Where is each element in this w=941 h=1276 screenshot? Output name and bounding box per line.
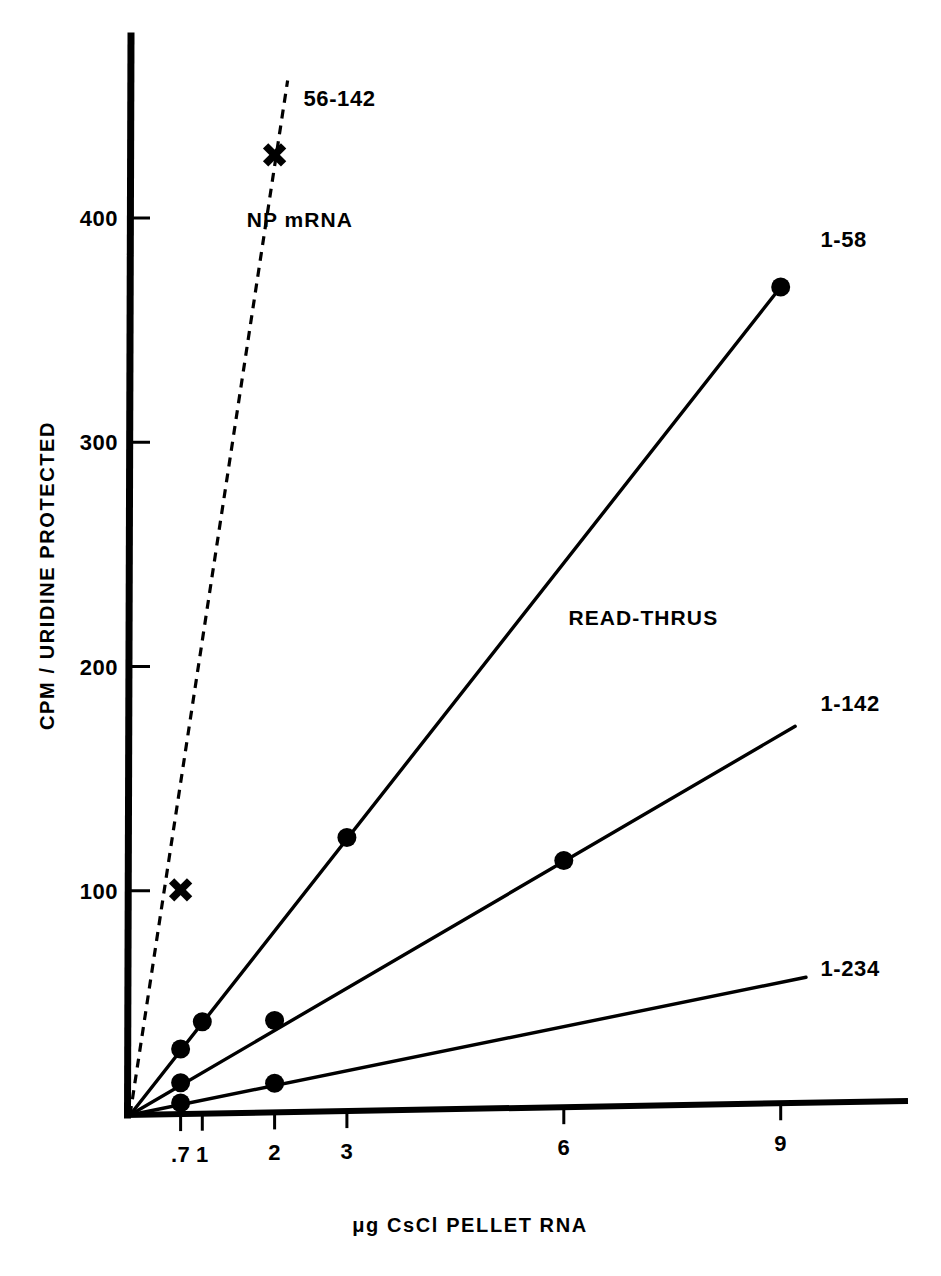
data-point-dot-1-142 bbox=[265, 1011, 284, 1030]
y-tick-label: 400 bbox=[80, 206, 118, 231]
series-label-1-142: 1-142 bbox=[820, 691, 879, 716]
y-tick-label: 100 bbox=[80, 879, 118, 904]
data-point-cross-56-142 bbox=[172, 881, 190, 899]
data-point-dot-1-142 bbox=[171, 1073, 190, 1092]
axes-group bbox=[128, 36, 906, 1115]
data-point-dot-1-142 bbox=[554, 851, 573, 870]
figure-root: 100200300400 .712369 56-1421-581-1421-23… bbox=[0, 0, 941, 1276]
y-tick-label: 300 bbox=[80, 430, 118, 455]
annotation-1: READ-THRUS bbox=[568, 606, 718, 629]
series-line-1-234 bbox=[130, 977, 806, 1115]
annotations-group: NP mRNAREAD-THRUS bbox=[247, 208, 719, 628]
x-axis-line bbox=[128, 1101, 905, 1115]
data-point-dot-1-58 bbox=[193, 1012, 212, 1031]
annotation-0: NP mRNA bbox=[247, 208, 354, 231]
x-tick-label: 2 bbox=[268, 1140, 281, 1165]
y-axis-title: CPM / URIDINE PROTECTED bbox=[36, 421, 58, 730]
y-tick-label: 200 bbox=[80, 655, 118, 680]
x-tick-label: 3 bbox=[341, 1139, 354, 1164]
series-line-1-142 bbox=[130, 726, 795, 1115]
data-point-dot-1-58 bbox=[171, 1040, 190, 1059]
data-point-dot-1-58 bbox=[771, 278, 790, 297]
series-lines-group bbox=[130, 81, 806, 1115]
series-label-56-142: 56-142 bbox=[304, 86, 376, 111]
x-tick-label: .7 bbox=[171, 1142, 190, 1167]
series-label-1-234: 1-234 bbox=[820, 956, 879, 981]
series-markers-group bbox=[171, 146, 790, 1113]
data-point-dot-1-234 bbox=[265, 1074, 284, 1093]
series-line-1-58 bbox=[130, 287, 781, 1115]
x-tick-label: 6 bbox=[557, 1135, 570, 1160]
data-point-dot-1-58 bbox=[337, 828, 356, 847]
series-label-1-58: 1-58 bbox=[820, 227, 866, 252]
x-axis-title: μg CsCl PELLET RNA bbox=[352, 1214, 588, 1236]
x-tick-label: 9 bbox=[774, 1131, 787, 1156]
y-axis-line bbox=[128, 36, 132, 1115]
chart-canvas: 100200300400 .712369 56-1421-581-1421-23… bbox=[0, 0, 941, 1276]
data-point-dot-1-234 bbox=[171, 1093, 190, 1112]
y-axis-ticks: 100200300400 bbox=[80, 206, 150, 904]
series-line-56-142 bbox=[130, 81, 288, 1115]
x-tick-label: 1 bbox=[196, 1142, 209, 1167]
